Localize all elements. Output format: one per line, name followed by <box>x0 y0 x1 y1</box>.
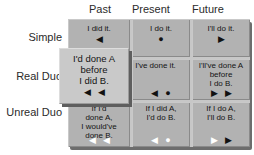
cell-simple-future[interactable]: I'll do it. ▶ <box>192 19 250 57</box>
cell-markers: ◀ ● <box>132 89 190 97</box>
row-label-unreal-duo: Unreal Duo <box>0 106 62 118</box>
popup-markers: ◀ ◀ <box>84 88 105 96</box>
triangle-right-icon: ▶ <box>225 89 232 97</box>
cell-markers: ◀ <box>96 35 103 43</box>
cell-markers: ◀ ● <box>132 136 190 144</box>
tense-chart: Past Present Future Simple Real Duo Unre… <box>0 0 254 155</box>
cell-text: If I do A, I'll do B. <box>192 104 250 122</box>
triangle-left-icon: ◀ <box>151 89 158 97</box>
row-label-simple: Simple <box>0 31 62 43</box>
popup-text: before <box>81 64 108 75</box>
triangle-left-icon: ◀ <box>96 35 103 43</box>
triangle-right-icon: ▶ <box>218 35 225 43</box>
column-header-future: Future <box>192 3 224 15</box>
cell-unreal-duo-past[interactable]: If I'd done A, I would've done B. ◀ ◀ <box>68 102 130 147</box>
cell-text: I do it. <box>132 24 190 33</box>
triangle-right-icon: ▶ <box>211 136 218 144</box>
cell-text: If I'd done A, I would've done B. <box>68 104 130 140</box>
cell-text: I'll've done A before I do B. <box>192 61 250 88</box>
column-header-past: Past <box>89 3 111 15</box>
popup-text: I'd done A <box>73 53 115 64</box>
circle-icon: ● <box>158 35 163 43</box>
cell-markers: ● <box>158 35 163 43</box>
cell-markers: ▶ <box>218 35 225 43</box>
triangle-right-icon: ▶ <box>211 89 218 97</box>
triangle-left-icon: ◀ <box>98 88 105 96</box>
cell-real-duo-future[interactable]: I'll've done A before I do B. ▶ ▶ <box>192 59 250 100</box>
circle-icon: ● <box>165 136 170 144</box>
cell-simple-present[interactable]: I do it. ● <box>132 19 190 57</box>
cell-markers: ◀ ◀ <box>68 136 130 144</box>
cell-text: I did it. <box>68 24 130 33</box>
cell-unreal-duo-future[interactable]: If I do A, I'll do B. ▶ ▶ <box>192 102 250 147</box>
popup: I'd done A before I did B. ◀ ◀ <box>59 48 129 104</box>
cell-markers: ▶ ▶ <box>192 136 250 144</box>
cell-unreal-duo-present[interactable]: If I did A, I'd do B. ◀ ● <box>132 102 190 147</box>
cell-text: I'll do it. <box>192 24 250 33</box>
cell-text: I've done it. <box>127 61 185 70</box>
column-header-present: Present <box>132 3 170 15</box>
circle-icon: ● <box>165 89 170 97</box>
cell-real-duo-present[interactable]: I've done it. ◀ ● <box>132 59 190 100</box>
triangle-left-icon: ◀ <box>103 136 110 144</box>
triangle-left-icon: ◀ <box>151 136 158 144</box>
triangle-left-icon: ◀ <box>84 88 91 96</box>
cell-text: If I did A, I'd do B. <box>132 104 190 122</box>
row-label-real-duo: Real Duo <box>0 70 62 82</box>
popup-text: I did B. <box>79 75 109 86</box>
cell-markers: ▶ ▶ <box>192 89 250 97</box>
triangle-right-icon: ▶ <box>225 136 232 144</box>
triangle-left-icon: ◀ <box>89 136 96 144</box>
